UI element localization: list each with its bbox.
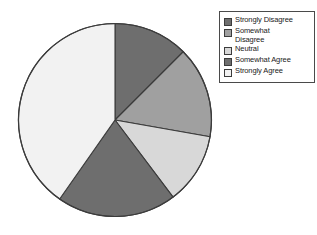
pie-svg <box>14 19 216 221</box>
legend-item-strongly-agree[interactable]: Strongly Agree <box>224 67 311 77</box>
pie-chart-figure: Strongly Disagree Somewhat Disagree Neut… <box>0 0 317 235</box>
legend-swatch-somewhat-disagree <box>224 29 232 37</box>
legend-swatch-strongly-agree <box>224 69 232 77</box>
legend-label-strongly-agree: Strongly Agree <box>235 67 283 76</box>
legend-item-strongly-disagree[interactable]: Strongly Disagree <box>224 16 311 26</box>
legend-swatch-somewhat-agree <box>224 58 232 66</box>
legend-swatch-neutral <box>224 47 232 55</box>
legend: Strongly Disagree Somewhat Disagree Neut… <box>219 11 315 83</box>
legend-label-strongly-disagree: Strongly Disagree <box>235 16 293 25</box>
pie-slice-group <box>18 24 211 217</box>
legend-label-somewhat-disagree: Somewhat Disagree <box>235 27 270 44</box>
legend-swatch-strongly-disagree <box>224 18 232 26</box>
legend-label-somewhat-agree: Somewhat Agree <box>235 56 291 65</box>
legend-label-neutral: Neutral <box>235 45 258 54</box>
pie-chart-plot <box>14 19 216 221</box>
legend-item-neutral[interactable]: Neutral <box>224 45 311 55</box>
legend-item-somewhat-agree[interactable]: Somewhat Agree <box>224 56 311 66</box>
legend-item-somewhat-disagree[interactable]: Somewhat Disagree <box>224 27 311 44</box>
